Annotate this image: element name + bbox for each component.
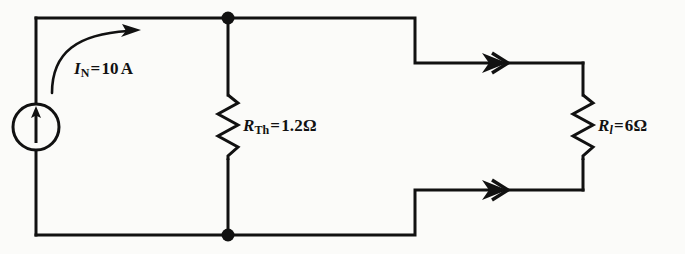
wire-top-right-jog bbox=[228, 18, 583, 63]
r-th-label: RTh=1.2Ω bbox=[243, 116, 317, 138]
r-load-zigzag bbox=[573, 95, 593, 160]
r-load-resistor-symbol bbox=[573, 95, 593, 160]
wire-bottom-right-jog bbox=[228, 190, 583, 235]
r-load-equals: = bbox=[613, 116, 625, 135]
norton-equivalent-circuit-figure: IN=10A RTh=1.2Ω Rl=6Ω bbox=[0, 0, 685, 254]
r-th-symbol: R bbox=[243, 116, 255, 135]
source-current-subscript: N bbox=[81, 66, 90, 80]
source-current-equals: = bbox=[90, 59, 102, 78]
r-th-value: 1.2 bbox=[281, 116, 303, 135]
circuit-schematic-canvas bbox=[0, 0, 685, 254]
r-th-zigzag bbox=[218, 95, 238, 160]
r-load-symbol: R bbox=[598, 116, 610, 135]
source-current-label: IN=10A bbox=[74, 59, 133, 81]
junction-dot-top bbox=[222, 12, 235, 25]
r-th-unit: Ω bbox=[303, 116, 317, 135]
r-th-equals: = bbox=[269, 116, 281, 135]
current-source-symbol bbox=[13, 104, 59, 150]
r-th-subscript: Th bbox=[255, 123, 270, 137]
junction-dot-bottom bbox=[222, 229, 235, 242]
r-load-label: Rl=6Ω bbox=[598, 116, 647, 138]
source-current-unit: A bbox=[119, 59, 133, 78]
r-load-unit: Ω bbox=[633, 116, 647, 135]
source-current-value: 10 bbox=[101, 59, 118, 78]
r-th-resistor-symbol bbox=[218, 95, 238, 160]
source-current-symbol: I bbox=[74, 59, 81, 78]
